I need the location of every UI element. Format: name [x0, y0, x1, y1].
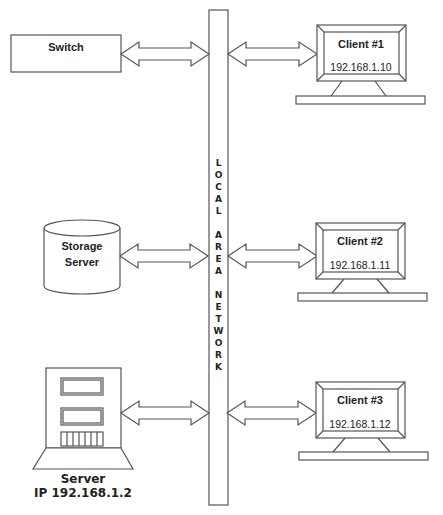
double-arrow-icon: [228, 42, 317, 66]
storage-server-node: Storage Server: [44, 220, 120, 294]
svg-text:N: N: [215, 290, 223, 300]
svg-text:R: R: [215, 350, 222, 360]
svg-text:E: E: [215, 302, 221, 312]
svg-text:O: O: [215, 338, 223, 348]
svg-text:O: O: [215, 170, 223, 180]
double-arrow-icon: [121, 42, 209, 66]
server-node: Server IP 192.168.1.2: [33, 368, 133, 500]
svg-text:T: T: [215, 314, 222, 324]
double-arrow-icon: [227, 401, 316, 425]
keyboard-icon: [299, 452, 428, 460]
svg-text:E: E: [215, 254, 221, 264]
svg-text:K: K: [215, 362, 223, 372]
svg-text:L: L: [216, 158, 222, 168]
client-2-node: Client #2 192.168.1.11: [298, 223, 427, 301]
svg-text:W: W: [214, 326, 224, 336]
server-name: Server: [61, 472, 106, 486]
client-name: Client #3: [337, 394, 383, 406]
switch-label: Switch: [48, 41, 84, 53]
client-ip: 192.168.1.12: [329, 418, 390, 430]
double-arrow-icon: [228, 244, 317, 268]
storage-label-line2: Server: [65, 256, 100, 268]
client-1-node: Client #1 192.168.1.10: [296, 25, 425, 104]
network-diagram: L O C A L A R E A N E T W O R K Switch S…: [0, 0, 443, 515]
svg-text:R: R: [215, 242, 222, 252]
client-3-node: Client #3 192.168.1.12: [299, 382, 428, 460]
svg-text:L: L: [216, 206, 222, 216]
client-ip: 192.168.1.11: [330, 259, 391, 271]
client-ip: 192.168.1.10: [330, 61, 391, 73]
svg-text:C: C: [215, 182, 222, 192]
switch-node: Switch: [11, 35, 121, 72]
svg-text:A: A: [215, 230, 222, 240]
storage-label-line1: Storage: [62, 240, 103, 252]
svg-text:A: A: [215, 266, 222, 276]
client-name: Client #1: [338, 38, 384, 50]
keyboard-icon: [298, 293, 427, 301]
svg-text:A: A: [215, 194, 222, 204]
lan-backbone: L O C A L A R E A N E T W O R K: [209, 10, 228, 505]
double-arrow-icon: [121, 401, 209, 425]
client-name: Client #2: [337, 235, 383, 247]
double-arrow-icon: [120, 244, 208, 268]
keyboard-icon: [296, 96, 425, 104]
server-ip: IP 192.168.1.2: [34, 486, 132, 500]
